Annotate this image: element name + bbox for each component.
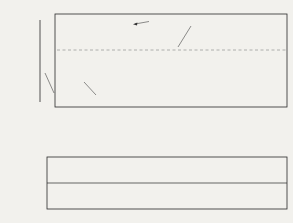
- arrow-head-icon: [133, 23, 137, 26]
- figure-svg: [0, 0, 293, 223]
- top-plot-frame: [55, 14, 287, 107]
- annotation-leader-line: [45, 73, 54, 93]
- annotation-f-series: [84, 82, 96, 95]
- annotation-level-series: [0, 0, 54, 93]
- bottom-chart: [0, 0, 287, 209]
- annotation-predicted: [0, 0, 149, 26]
- scanned-figure: [0, 0, 293, 223]
- top-chart: [0, 0, 287, 107]
- annotation-leader-line: [84, 82, 96, 95]
- annotation-mean-level: [0, 0, 191, 47]
- annotation-leader-line: [178, 26, 191, 47]
